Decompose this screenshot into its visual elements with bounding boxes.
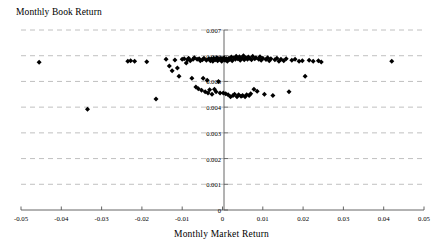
x-tick-label: 0.02 (297, 215, 309, 222)
y-tick-label: 0.004 (190, 104, 221, 111)
scatter-chart-figure: Monthly Book Return 00.0010.0020.0030.00… (0, 0, 443, 252)
data-point-marker (167, 64, 172, 69)
y-tick-label: 0.007 (190, 27, 221, 34)
x-tick-label: -0.01 (175, 215, 189, 222)
x-tick-label: 0.01 (257, 215, 269, 222)
data-point-marker (176, 74, 181, 79)
data-point-marker (164, 57, 169, 62)
gridlines-group (21, 30, 424, 184)
data-point-marker (262, 92, 267, 97)
x-tick-label: -0.02 (135, 215, 149, 222)
data-point-marker (210, 92, 215, 97)
data-point-marker (132, 59, 137, 64)
y-tick-label: 0.001 (190, 181, 221, 188)
data-point-marker (170, 68, 175, 73)
data-point-marker (300, 58, 305, 63)
y-tick-label: 0.005 (190, 78, 221, 85)
data-point-marker (307, 58, 312, 63)
x-tick-marks (21, 207, 424, 211)
x-axis-title: Monthly Market Return (0, 229, 443, 239)
data-point-marker (389, 59, 394, 64)
x-tick-label: 0.04 (378, 215, 390, 222)
y-tick-label: 0.003 (190, 129, 221, 136)
y-tick-label: 0.002 (190, 155, 221, 162)
x-tick-label: 0.03 (337, 215, 349, 222)
data-point-marker (311, 59, 316, 64)
data-point-marker (270, 93, 275, 98)
x-tick-label: 0.05 (418, 215, 430, 222)
y-tick-label: 0 (190, 207, 221, 214)
x-tick-label: 0 (221, 215, 224, 222)
data-point-marker (175, 66, 180, 71)
x-tick-label: -0.05 (14, 215, 28, 222)
data-point-marker (154, 96, 159, 101)
data-point-marker (144, 59, 149, 64)
data-point-marker (172, 58, 177, 63)
y-tick-label: 0.006 (190, 52, 221, 59)
x-tick-label: -0.04 (54, 215, 68, 222)
chart-title: Monthly Book Return (16, 7, 102, 17)
x-tick-label: -0.03 (95, 215, 109, 222)
data-point-marker (287, 89, 292, 94)
data-point-marker (303, 74, 308, 79)
data-point-marker (37, 60, 42, 65)
